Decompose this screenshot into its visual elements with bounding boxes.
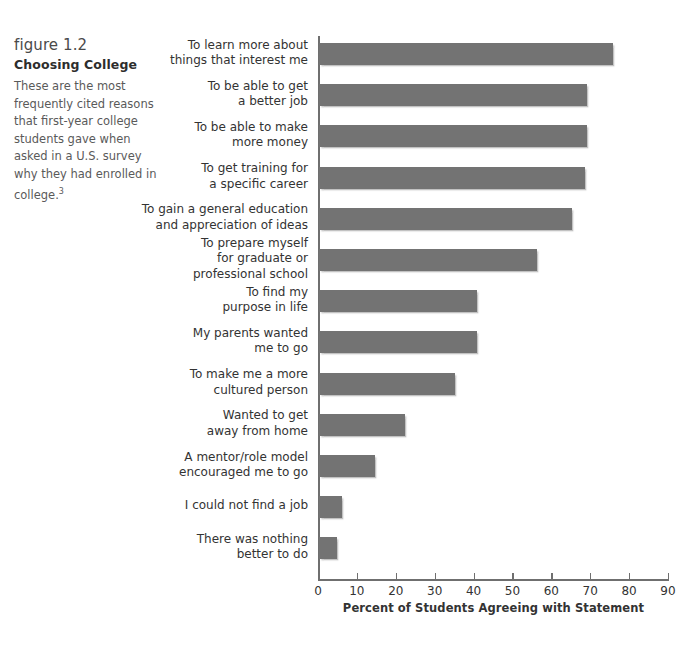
category-label: A mentor/role modelencouraged me to go	[78, 450, 308, 481]
bar	[319, 167, 585, 189]
bar-fill	[319, 455, 375, 477]
category-label-line: A mentor/role model	[78, 450, 308, 466]
category-label-line: To prepare myself	[78, 236, 308, 252]
x-tick-label: 20	[376, 584, 416, 598]
x-tick	[357, 573, 358, 580]
bar-fill	[319, 208, 572, 230]
category-label-line: To gain a general education	[78, 202, 308, 218]
category-label: My parents wantedme to go	[78, 326, 308, 357]
category-label-line: more money	[78, 135, 308, 151]
category-label-line: a specific career	[78, 177, 308, 193]
x-tick	[396, 573, 397, 580]
bar-fill	[319, 125, 587, 147]
category-label-line: There was nothing	[78, 532, 308, 548]
category-label-line: a better job	[78, 94, 308, 110]
category-label-line: away from home	[78, 424, 308, 440]
x-tick	[318, 573, 319, 580]
bar	[319, 537, 337, 559]
category-label: Wanted to getaway from home	[78, 408, 308, 439]
x-tick-label: 50	[492, 584, 532, 598]
x-tick-label: 60	[531, 584, 571, 598]
bar	[319, 496, 342, 518]
category-label-line: purpose in life	[78, 300, 308, 316]
bar	[319, 208, 572, 230]
x-axis-title: Percent of Students Agreeing with Statem…	[318, 601, 669, 615]
bar-fill	[319, 43, 613, 65]
x-axis-line	[318, 579, 669, 581]
x-tick	[590, 573, 591, 580]
category-label-line: My parents wanted	[78, 326, 308, 342]
category-label-line: To be able to make	[78, 120, 308, 136]
x-tick-label: 40	[454, 584, 494, 598]
bar	[319, 331, 477, 353]
x-tick	[474, 573, 475, 580]
x-tick-label: 10	[337, 584, 377, 598]
category-label-line: and appreciation of ideas	[78, 218, 308, 234]
x-tick	[629, 573, 630, 580]
category-label-line: Wanted to get	[78, 408, 308, 424]
x-tick	[668, 573, 669, 580]
x-tick-label: 90	[648, 584, 678, 598]
category-label-line: To get training for	[78, 161, 308, 177]
bar-fill	[319, 373, 455, 395]
bar-chart: To learn more aboutthings that interest …	[0, 0, 678, 651]
plot-area	[318, 36, 668, 580]
bar-fill	[319, 496, 342, 518]
x-tick	[435, 573, 436, 580]
bar-fill	[319, 167, 585, 189]
category-label: There was nothingbetter to do	[78, 532, 308, 563]
x-tick	[551, 573, 552, 580]
category-label-line: To make me a more	[78, 367, 308, 383]
category-label-line: cultured person	[78, 383, 308, 399]
category-label-line: To find my	[78, 285, 308, 301]
category-label: To find mypurpose in life	[78, 285, 308, 316]
category-label-line: better to do	[78, 547, 308, 563]
category-label-line: To be able to get	[78, 79, 308, 95]
category-label-line: encouraged me to go	[78, 465, 308, 481]
bar	[319, 414, 405, 436]
x-tick-label: 70	[570, 584, 610, 598]
category-label: To get training fora specific career	[78, 161, 308, 192]
category-label: To learn more aboutthings that interest …	[78, 38, 308, 69]
category-label: To be able to geta better job	[78, 79, 308, 110]
category-label: To make me a morecultured person	[78, 367, 308, 398]
x-tick-label: 30	[415, 584, 455, 598]
bar-fill	[319, 290, 477, 312]
category-label: To gain a general educationand appreciat…	[78, 202, 308, 233]
x-tick	[512, 573, 513, 580]
bar-fill	[319, 84, 587, 106]
bar	[319, 125, 587, 147]
category-label-line: me to go	[78, 341, 308, 357]
category-label-line: things that interest me	[78, 53, 308, 69]
x-tick-label: 80	[609, 584, 649, 598]
bar	[319, 290, 477, 312]
category-label-line: I could not find a job	[78, 498, 308, 514]
bar	[319, 373, 455, 395]
category-label-line: for graduate or	[78, 251, 308, 267]
bar	[319, 455, 375, 477]
bar-fill	[319, 414, 405, 436]
category-label: To prepare myselffor graduate orprofessi…	[78, 236, 308, 283]
bar-fill	[319, 249, 537, 271]
bar	[319, 43, 613, 65]
bar-fill	[319, 331, 477, 353]
category-label-line: To learn more about	[78, 38, 308, 54]
bar	[319, 249, 537, 271]
figure-root: figure 1.2 Choosing College These are th…	[0, 0, 678, 651]
bar	[319, 84, 587, 106]
category-label: To be able to makemore money	[78, 120, 308, 151]
category-label: I could not find a job	[78, 498, 308, 514]
x-tick-label: 0	[298, 584, 338, 598]
category-label-line: professional school	[78, 267, 308, 283]
bar-fill	[319, 537, 337, 559]
